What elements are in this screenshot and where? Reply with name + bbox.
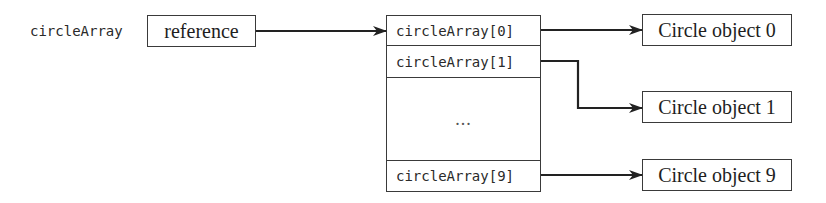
reference-box-label: reference — [164, 20, 238, 43]
array-cell-1: circleArray[1] — [387, 46, 540, 78]
variable-name-label: circleArray — [30, 19, 123, 43]
array-cell-label: circleArray[1] — [396, 54, 514, 70]
array-cell-label: circleArray[0] — [396, 23, 514, 39]
array-box: circleArray[0] circleArray[1] ... circle… — [386, 15, 541, 192]
circle-object-1-box: Circle object 1 — [642, 91, 792, 123]
reference-box: reference — [147, 15, 256, 47]
circle-object-label: Circle object 1 — [658, 96, 776, 119]
array-cell-ellipsis: ... — [387, 78, 540, 161]
circle-object-9-box: Circle object 9 — [642, 159, 792, 191]
circle-object-label: Circle object 9 — [658, 164, 776, 187]
ellipsis-label: ... — [455, 109, 472, 130]
arrow-cell1-to-object1 — [541, 61, 642, 108]
circle-object-0-box: Circle object 0 — [642, 14, 792, 46]
array-cell-9: circleArray[9] — [387, 161, 540, 191]
array-cell-0: circleArray[0] — [387, 16, 540, 46]
array-cell-label: circleArray[9] — [396, 168, 514, 184]
circle-object-label: Circle object 0 — [658, 19, 776, 42]
array-reference-diagram: circleArray reference circleArray[0] cir… — [0, 0, 826, 203]
